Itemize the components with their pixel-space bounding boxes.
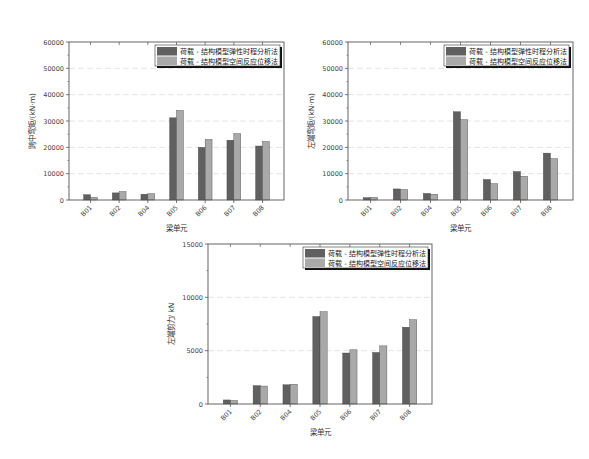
y-tick-label: 10000 <box>182 294 203 302</box>
legend-label-2: 荷载 - 结构模型空间反应位移法 <box>180 57 278 66</box>
y-tick-label: 60000 <box>322 39 343 47</box>
legend-label-1: 荷载 - 结构模型弹性时程分析法 <box>180 47 278 56</box>
y-tick-label: 50000 <box>322 65 343 73</box>
bar-B05-series1 <box>313 317 320 404</box>
bar-B07-series1 <box>227 140 234 200</box>
x-tick-label: B04 <box>419 204 434 219</box>
legend-swatch-1 <box>157 47 177 56</box>
legend-swatch-1 <box>446 47 466 56</box>
x-tick-label: B02 <box>249 408 264 423</box>
legend-swatch-1 <box>305 249 325 258</box>
chart-2: B01B02B04B05B06B07B08050001000015000左端剪力… <box>166 241 432 438</box>
bar-B01-series1 <box>84 195 91 200</box>
legend-label-2: 荷载 - 结构模型空间反应位移法 <box>469 57 567 66</box>
x-axis-label: 梁单元 <box>166 223 188 233</box>
y-tick-label: 40000 <box>43 91 64 99</box>
bar-B02-series2 <box>401 189 408 200</box>
bar-B07-series1 <box>513 172 520 200</box>
bar-B07-series2 <box>521 176 528 200</box>
legend-label-2: 荷载 - 结构模型空间反应位移法 <box>328 259 426 268</box>
bar-B05-series2 <box>320 312 327 404</box>
x-tick-label: B07 <box>368 408 383 423</box>
x-tick-label: B02 <box>108 204 123 219</box>
x-tick-label: B01 <box>79 204 94 219</box>
x-axis-label: 梁单元 <box>310 427 332 437</box>
bar-B04-series1 <box>283 385 290 404</box>
bar-B01-series2 <box>230 400 237 404</box>
x-tick-label: B07 <box>509 204 524 219</box>
bar-B02-series2 <box>260 386 267 404</box>
y-tick-label: 10000 <box>43 170 64 178</box>
bar-B04-series1 <box>141 194 148 200</box>
bar-B06-series2 <box>491 184 498 200</box>
bar-B08-series2 <box>410 320 417 404</box>
y-tick-label: 20000 <box>322 144 343 152</box>
y-axis-label: 左端剪力/ kN <box>166 303 176 346</box>
x-tick-label: B04 <box>137 204 152 219</box>
bar-B07-series1 <box>373 352 380 404</box>
legend: 荷载 - 结构模型弹性时程分析法荷载 - 结构模型空间反应位移法 <box>155 45 282 68</box>
bar-B04-series2 <box>148 194 155 200</box>
legend-swatch-2 <box>305 259 325 268</box>
bar-B06-series1 <box>198 147 205 200</box>
bar-B02-series1 <box>253 386 260 404</box>
bar-B02-series1 <box>112 193 119 200</box>
y-tick-label: 40000 <box>322 91 343 99</box>
bar-B08-series1 <box>256 146 263 200</box>
bar-B07-series2 <box>380 346 387 404</box>
bar-B06-series1 <box>343 353 350 404</box>
bar-B08-series2 <box>551 159 558 200</box>
bar-B05-series1 <box>453 112 460 200</box>
chart-1: B01B02B04B05B06B07B080100002000030000400… <box>306 39 573 234</box>
bar-B05-series2 <box>177 110 184 200</box>
x-tick-label: B02 <box>389 204 404 219</box>
x-tick-label: B05 <box>449 204 464 219</box>
bar-B06-series1 <box>483 179 490 200</box>
y-axis-label: 跨中弯矩/(kN·m) <box>27 93 37 149</box>
y-tick-label: 5000 <box>186 347 203 355</box>
y-tick-label: 0 <box>60 197 64 205</box>
bar-B08-series2 <box>263 142 270 200</box>
y-tick-label: 0 <box>339 197 343 205</box>
y-tick-label: 30000 <box>322 118 343 126</box>
bar-B05-series1 <box>170 118 177 200</box>
legend-label-1: 荷载 - 结构模型弹性时程分析法 <box>328 249 426 258</box>
chart-0: B01B02B04B05B06B07B080100002000030000400… <box>27 39 284 234</box>
x-tick-label: B06 <box>479 204 494 219</box>
bar-B08-series1 <box>543 153 550 200</box>
x-tick-label: B06 <box>194 204 209 219</box>
x-tick-label: B06 <box>339 408 354 423</box>
x-tick-label: B08 <box>398 408 413 423</box>
x-tick-label: B08 <box>539 204 554 219</box>
y-tick-label: 0 <box>199 401 203 409</box>
legend-swatch-2 <box>157 57 177 66</box>
y-tick-label: 20000 <box>43 144 64 152</box>
y-tick-label: 30000 <box>43 118 64 126</box>
legend: 荷载 - 结构模型弹性时程分析法荷载 - 结构模型空间反应位移法 <box>303 247 430 270</box>
x-tick-label: B04 <box>279 408 294 423</box>
bar-B02-series1 <box>393 189 400 200</box>
bar-B01-series1 <box>223 400 230 404</box>
x-tick-label: B07 <box>223 204 238 219</box>
x-tick-label: B01 <box>219 408 234 423</box>
x-axis-label: 梁单元 <box>450 223 472 233</box>
bar-B04-series1 <box>423 193 430 200</box>
legend: 荷载 - 结构模型弹性时程分析法荷载 - 结构模型空间反应位移法 <box>444 45 571 68</box>
bar-B06-series2 <box>205 139 212 200</box>
bar-B02-series2 <box>119 192 126 200</box>
bar-B05-series2 <box>461 120 468 200</box>
y-tick-label: 60000 <box>43 39 64 47</box>
x-tick-label: B08 <box>251 204 266 219</box>
bar-B04-series2 <box>431 194 438 200</box>
y-axis-label: 左端弯矩/(kN·m) <box>306 93 316 149</box>
y-tick-label: 10000 <box>322 170 343 178</box>
bar-B06-series2 <box>350 350 357 404</box>
bar-B04-series2 <box>290 384 297 404</box>
x-tick-label: B01 <box>359 204 374 219</box>
legend-swatch-2 <box>446 57 466 66</box>
x-tick-label: B05 <box>309 408 324 423</box>
bar-B08-series1 <box>402 327 409 404</box>
y-tick-label: 50000 <box>43 65 64 73</box>
legend-label-1: 荷载 - 结构模型弹性时程分析法 <box>469 47 567 56</box>
x-tick-label: B05 <box>165 204 180 219</box>
